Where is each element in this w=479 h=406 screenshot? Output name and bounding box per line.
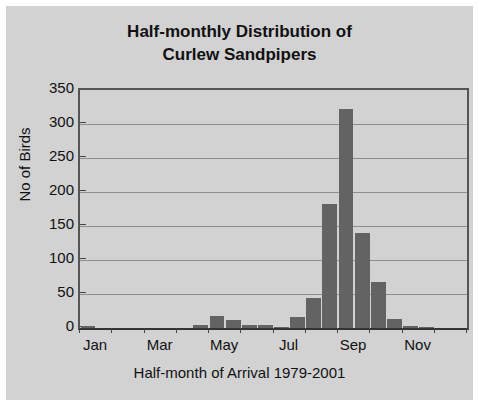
x-axis-tick-mark bbox=[79, 328, 80, 333]
x-axis-tick-mark bbox=[176, 328, 177, 333]
x-axis-tick-mark bbox=[240, 328, 241, 333]
x-axis-tick-label: May bbox=[194, 336, 254, 353]
y-axis-tick-label: 150 bbox=[12, 215, 74, 232]
chart-title: Half-monthly Distribution of Curlew Sand… bbox=[6, 20, 473, 66]
x-axis-tick-label: Jul bbox=[259, 336, 319, 353]
x-axis-tick-mark bbox=[144, 328, 145, 333]
bar bbox=[226, 320, 241, 328]
x-axis-tick-mark bbox=[434, 328, 435, 333]
x-axis-tick-marks bbox=[78, 328, 469, 334]
chart-title-line-1: Half-monthly Distribution of bbox=[127, 22, 352, 41]
x-axis-tick-label: Sep bbox=[323, 336, 383, 353]
chart-title-line-2: Curlew Sandpipers bbox=[6, 43, 473, 66]
bar bbox=[339, 109, 354, 328]
plot-area bbox=[78, 88, 469, 330]
y-axis-tick-label: 350 bbox=[12, 79, 74, 96]
x-axis-tick-mark bbox=[305, 328, 306, 333]
bar bbox=[290, 317, 305, 328]
x-axis-tick-mark bbox=[111, 328, 112, 333]
x-axis-tick-mark bbox=[208, 328, 209, 333]
x-axis-tick-mark bbox=[273, 328, 274, 333]
bar bbox=[306, 298, 321, 328]
x-axis-tick-mark bbox=[466, 328, 467, 333]
x-axis-tick-mark bbox=[369, 328, 370, 333]
bar bbox=[322, 204, 337, 328]
bar bbox=[387, 319, 402, 328]
y-axis-tick-label: 0 bbox=[12, 317, 74, 334]
x-axis-tick-label: Nov bbox=[388, 336, 448, 353]
y-axis-tick-label: 300 bbox=[12, 113, 74, 130]
x-axis-tick-labels: JanMarMayJulSepNov bbox=[78, 336, 469, 358]
y-axis-tick-label: 50 bbox=[12, 283, 74, 300]
x-axis-tick-label: Jan bbox=[65, 336, 125, 353]
x-axis-tick-mark bbox=[337, 328, 338, 333]
x-axis-title: Half-month of Arrival 1979-2001 bbox=[6, 364, 473, 381]
x-axis-tick-label: Mar bbox=[130, 336, 190, 353]
y-axis-tick-label: 250 bbox=[12, 147, 74, 164]
bar-series bbox=[80, 90, 467, 328]
bar bbox=[371, 282, 386, 328]
x-axis-tick-mark bbox=[402, 328, 403, 333]
y-axis-tick-label: 200 bbox=[12, 181, 74, 198]
bar bbox=[355, 233, 370, 328]
chart-figure: Half-monthly Distribution of Curlew Sand… bbox=[6, 6, 473, 400]
bar bbox=[210, 316, 225, 328]
y-axis-tick-label: 100 bbox=[12, 249, 74, 266]
y-axis-tick-labels: 350300250200150100500 bbox=[6, 88, 74, 326]
